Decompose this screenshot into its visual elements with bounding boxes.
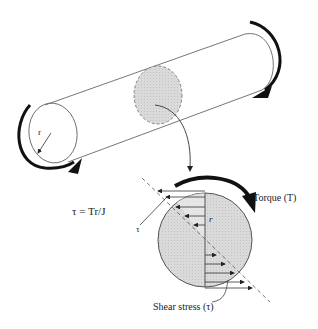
left-torque-arrow-icon — [19, 105, 82, 174]
formula-label: τ = Tr/J — [72, 206, 105, 217]
torsion-diagram: r τ = Tr/J τ r Torque (T) Shear stress (… — [0, 0, 318, 329]
radius-label-cylinder: r — [38, 128, 41, 137]
cross-section-dashed — [134, 66, 182, 124]
shear-stress-label: Shear stress (τ) — [153, 302, 214, 312]
tau-label: τ — [136, 225, 140, 234]
torque-label: Torque (T) — [253, 193, 296, 203]
radius-label-section: r — [209, 215, 213, 224]
diagram-graphics — [0, 0, 318, 329]
right-torque-arrow-icon — [250, 22, 280, 98]
